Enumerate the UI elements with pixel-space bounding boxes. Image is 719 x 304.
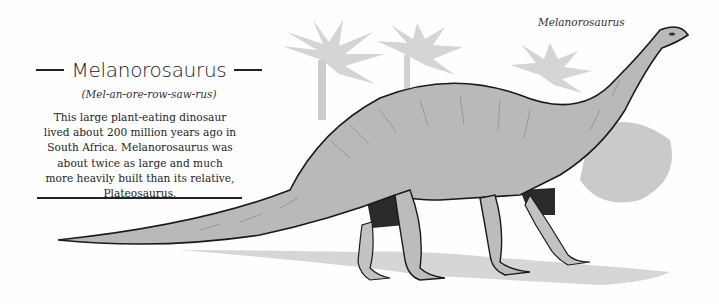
description-line: lived about 200 million years ago in	[32, 125, 248, 140]
title-text: Melanorosaurus	[72, 58, 227, 82]
description-line: more heavily built than its relative,	[32, 171, 248, 186]
description-line: Plateosaurus.	[32, 186, 248, 201]
title-dash-left	[36, 69, 64, 71]
description: This large plant-eating dinosaur lived a…	[32, 110, 248, 201]
description-line: about twice as large and much	[32, 156, 248, 171]
page-title: Melanorosaurus	[34, 58, 264, 82]
dinosaur-eye	[669, 33, 675, 36]
title-block: Melanorosaurus (Mel-an-ore-row-saw-rus)	[34, 58, 264, 100]
title-dash-right	[234, 69, 262, 71]
book-page: Melanorosaurus (Mel-an-ore-row-saw-rus) …	[0, 0, 719, 304]
pronunciation: (Mel-an-ore-row-saw-rus)	[34, 88, 264, 100]
description-line: This large plant-eating dinosaur	[32, 110, 248, 125]
description-line: South Africa. Melanorosaurus was	[32, 140, 248, 155]
section-divider	[37, 197, 242, 199]
illustration-caption: Melanorosaurus	[538, 16, 625, 28]
